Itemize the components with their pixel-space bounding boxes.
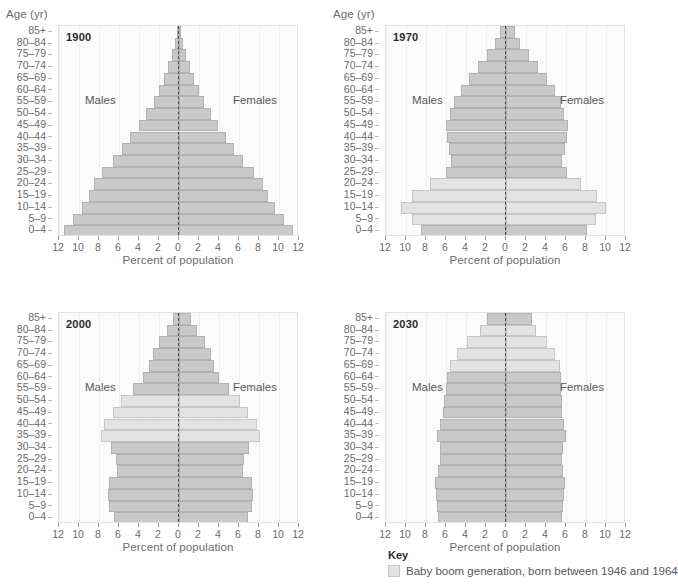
y-axis-tick-label: 25–29 bbox=[344, 166, 373, 178]
bar-male bbox=[143, 372, 179, 384]
key-entry-baby-boom: Baby boom generation, born between 1946 … bbox=[388, 565, 654, 577]
x-axis-tick bbox=[278, 523, 279, 527]
x-axis-tick bbox=[98, 236, 99, 240]
bar-female bbox=[179, 178, 263, 190]
zero-center-line bbox=[178, 313, 179, 522]
y-axis-tick bbox=[375, 66, 379, 67]
bar-male bbox=[111, 442, 179, 454]
bar-male bbox=[139, 120, 179, 132]
bar-male bbox=[64, 225, 179, 236]
bar-male bbox=[446, 120, 506, 132]
y-axis-tick bbox=[48, 376, 52, 377]
bar-female bbox=[179, 313, 191, 325]
x-axis-tick-label: 10 bbox=[72, 241, 84, 253]
y-axis-tick bbox=[48, 388, 52, 389]
x-axis-tick-label: 6 bbox=[442, 528, 448, 540]
bar-female bbox=[179, 419, 257, 431]
x-axis-tick-label: 8 bbox=[95, 241, 101, 253]
y-axis-tick-label: 85+ bbox=[28, 25, 46, 37]
x-axis-tick bbox=[445, 523, 446, 527]
y-axis-tick-label: 15–19 bbox=[17, 189, 46, 201]
y-axis-labels: 0–45–910–1415–1920–2425–2930–3435–3940–4… bbox=[327, 25, 379, 236]
pyramid-panel-2030: 0–45–910–1415–1920–2425–2930–3435–3940–4… bbox=[327, 295, 654, 580]
females-label: Females bbox=[560, 381, 604, 393]
x-axis: 12108642024681012 bbox=[58, 236, 298, 256]
y-axis-tick bbox=[48, 330, 52, 331]
x-axis-tick-label: 6 bbox=[442, 241, 448, 253]
y-axis-tick-label: 35–39 bbox=[17, 142, 46, 154]
y-axis-tick bbox=[375, 207, 379, 208]
panel-year-label: 1970 bbox=[393, 31, 418, 43]
females-label: Females bbox=[560, 94, 604, 106]
x-axis-tick-label: 0 bbox=[502, 241, 508, 253]
y-axis-tick-label: 15–19 bbox=[344, 189, 373, 201]
x-axis-tick bbox=[78, 523, 79, 527]
x-axis-tick bbox=[138, 236, 139, 240]
x-axis-tick-label: 8 bbox=[582, 241, 588, 253]
x-axis-tick bbox=[58, 236, 59, 240]
y-axis-tick-label: 40–44 bbox=[344, 418, 373, 430]
y-axis-tick-label: 70–74 bbox=[344, 60, 373, 72]
bar-male bbox=[82, 202, 179, 214]
y-axis-tick-label: 60–64 bbox=[17, 84, 46, 96]
bar-male bbox=[412, 190, 506, 202]
bar-female bbox=[179, 372, 219, 384]
x-axis-tick-label: 10 bbox=[272, 241, 284, 253]
y-axis-tick bbox=[375, 494, 379, 495]
y-axis-tick-label: 60–64 bbox=[344, 371, 373, 383]
bar-male bbox=[480, 325, 506, 337]
x-axis-tick bbox=[118, 523, 119, 527]
x-axis-tick-label: 6 bbox=[562, 528, 568, 540]
bar-female bbox=[179, 38, 183, 50]
x-axis-tick-label: 4 bbox=[215, 528, 221, 540]
pyramid-panel-1900: Age (yr)0–45–910–1415–1920–2425–2930–343… bbox=[0, 8, 327, 293]
bar-female bbox=[506, 383, 561, 395]
bar-female bbox=[506, 143, 565, 155]
y-axis-tick bbox=[375, 423, 379, 424]
x-axis-tick-label: 12 bbox=[52, 528, 64, 540]
females-label: Females bbox=[233, 94, 277, 106]
x-axis-tick bbox=[465, 236, 466, 240]
y-axis-tick bbox=[48, 89, 52, 90]
bar-male bbox=[159, 85, 179, 97]
y-axis-tick bbox=[48, 494, 52, 495]
bar-female bbox=[506, 73, 547, 85]
plot-area: 1900MalesFemales bbox=[58, 25, 298, 236]
y-axis-tick bbox=[48, 435, 52, 436]
bar-female bbox=[506, 96, 561, 108]
y-axis-tick-label: 20–24 bbox=[344, 177, 373, 189]
y-axis-tick bbox=[375, 78, 379, 79]
y-axis-tick-label: 15–19 bbox=[17, 476, 46, 488]
x-axis-tick-label: 12 bbox=[52, 241, 64, 253]
y-axis-tick bbox=[48, 113, 52, 114]
y-axis-tick-label: 55–59 bbox=[344, 95, 373, 107]
x-axis-tick-label: 12 bbox=[292, 241, 304, 253]
x-axis-tick-label: 0 bbox=[175, 241, 181, 253]
females-label: Females bbox=[233, 381, 277, 393]
key-entry-label: Baby boom generation, born between 1946 … bbox=[406, 565, 678, 577]
bar-female bbox=[506, 372, 561, 384]
x-axis-tick bbox=[485, 523, 486, 527]
bar-female bbox=[179, 155, 243, 167]
y-axis-tick-label: 10–14 bbox=[17, 488, 46, 500]
bar-female bbox=[179, 225, 293, 236]
y-axis-tick-label: 35–39 bbox=[344, 142, 373, 154]
x-axis-tick bbox=[605, 523, 606, 527]
bar-female bbox=[506, 49, 529, 61]
bar-male bbox=[437, 430, 506, 442]
x-axis-tick-label: 6 bbox=[115, 528, 121, 540]
y-axis-tick bbox=[375, 160, 379, 161]
bar-female bbox=[506, 178, 581, 190]
bar-female bbox=[179, 190, 268, 202]
x-axis-tick-label: 6 bbox=[235, 528, 241, 540]
bar-male bbox=[438, 512, 506, 523]
y-axis-tick bbox=[375, 54, 379, 55]
y-axis-tick bbox=[48, 101, 52, 102]
y-axis-tick-label: 0–4 bbox=[355, 511, 373, 523]
x-axis-tick-label: 4 bbox=[542, 241, 548, 253]
bar-male bbox=[446, 383, 506, 395]
bar-female bbox=[179, 454, 244, 466]
y-axis-tick-label: 5–9 bbox=[355, 213, 373, 225]
bar-male bbox=[102, 167, 179, 179]
x-axis-tick-label: 4 bbox=[462, 528, 468, 540]
